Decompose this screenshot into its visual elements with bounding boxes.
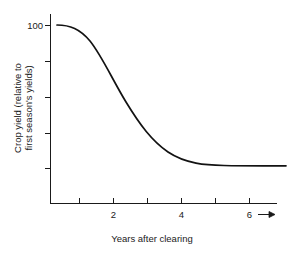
y-axis-ticks xyxy=(45,26,51,169)
x-tick-label-2: 2 xyxy=(111,209,116,220)
y-tick-label-100: 100 xyxy=(27,20,43,31)
x-axis-ticks xyxy=(80,198,250,204)
yield-decline-curve xyxy=(57,25,286,166)
x-tick-label-4: 4 xyxy=(179,209,184,220)
chart-plot-area: 100 2 4 6 Years after clearing Crop yiel… xyxy=(0,0,293,257)
x-axis-title: Years after clearing xyxy=(111,233,193,244)
y-axis-title-line2: first season's yields) xyxy=(23,65,34,150)
x-tick-label-6: 6 xyxy=(247,209,252,220)
chart-figure: 100 2 4 6 Years after clearing Crop yiel… xyxy=(0,0,293,257)
y-axis-title-line1: Crop yield (relative to xyxy=(12,63,23,153)
x-axis-arrow-icon xyxy=(258,212,275,218)
